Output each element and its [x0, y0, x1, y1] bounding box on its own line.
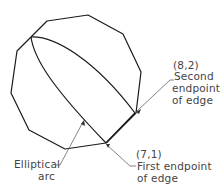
arc-label-line2: arc	[38, 170, 55, 182]
leader-first-endpoint	[107, 145, 136, 166]
first-point-coord: (7,1)	[136, 148, 162, 160]
elliptical-arc-right	[31, 37, 135, 113]
elliptical-arc-diagram: (8,2) Second endpoint of edge (7,1) Firs…	[0, 0, 222, 191]
first-point-line1: First endpoint	[137, 160, 212, 172]
leader-second-endpoint	[137, 80, 174, 111]
edge-line	[106, 113, 135, 143]
second-point-line3: of edge	[172, 94, 213, 106]
polygon-outline	[11, 15, 141, 149]
elliptical-arc-left	[31, 37, 106, 143]
first-point-line2: of edge	[137, 172, 178, 184]
arc-label-line1: Elliptical	[14, 158, 60, 170]
second-point-line2: endpoint	[172, 82, 220, 94]
second-point-line1: Second	[174, 70, 214, 82]
